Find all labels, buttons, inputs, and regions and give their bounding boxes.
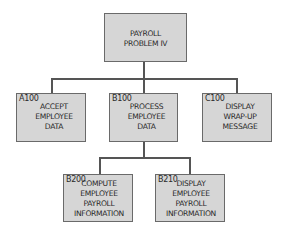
connector-to-b100 bbox=[143, 78, 145, 93]
module-label: COMPUTE EMPLOYEE PAYROLL INFORMATION bbox=[66, 179, 132, 219]
connector-to-b210 bbox=[189, 157, 191, 174]
module-label-line: COMPUTE bbox=[66, 179, 132, 189]
module-label-line: DISPLAY bbox=[158, 179, 224, 189]
module-label: DISPLAY WRAP-UP MESSAGE bbox=[209, 102, 271, 132]
connector-to-c100 bbox=[236, 78, 238, 93]
connector-root-down bbox=[143, 62, 145, 78]
module-label-line: EMPLOYEE bbox=[66, 189, 132, 199]
connector-level1-bus bbox=[51, 78, 238, 80]
box-a100-accept-employee-data: A100 ACCEPT EMPLOYEE DATA bbox=[16, 93, 86, 142]
module-label-line: PROCESS bbox=[116, 102, 177, 112]
box-b200-compute-employee-payroll-information: B200 COMPUTE EMPLOYEE PAYROLL INFORMATIO… bbox=[63, 174, 133, 222]
module-label-line: EMPLOYEE bbox=[158, 189, 224, 199]
module-label-line: MESSAGE bbox=[209, 122, 271, 132]
connector-to-b200 bbox=[99, 157, 101, 174]
root-box-payroll-problem-iv: PAYROLL PROBLEM IV bbox=[104, 13, 187, 62]
box-b100-process-employee-data: B100 PROCESS EMPLOYEE DATA bbox=[109, 93, 178, 142]
module-label-line: DATA bbox=[116, 122, 177, 132]
module-label-line: INFORMATION bbox=[66, 209, 132, 219]
connector-b100-down bbox=[143, 142, 145, 157]
root-label-line: PAYROLL bbox=[105, 29, 186, 39]
module-label-line: WRAP-UP bbox=[209, 112, 271, 122]
box-c100-display-wrap-up-message: C100 DISPLAY WRAP-UP MESSAGE bbox=[202, 93, 272, 142]
module-label: PROCESS EMPLOYEE DATA bbox=[116, 102, 177, 132]
module-label-line: EMPLOYEE bbox=[116, 112, 177, 122]
root-label-line: PROBLEM IV bbox=[105, 39, 186, 49]
module-label: ACCEPT EMPLOYEE DATA bbox=[23, 102, 85, 132]
module-label-line: EMPLOYEE bbox=[23, 112, 85, 122]
module-label-line: PAYROLL bbox=[158, 199, 224, 209]
module-label-line: DISPLAY bbox=[209, 102, 271, 112]
connector-to-a100 bbox=[51, 78, 53, 93]
box-b210-display-employee-payroll-information: B210 DISPLAY EMPLOYEE PAYROLL INFORMATIO… bbox=[155, 174, 225, 222]
module-label-line: PAYROLL bbox=[66, 199, 132, 209]
connector-level2-bus bbox=[99, 157, 190, 159]
root-label: PAYROLL PROBLEM IV bbox=[105, 29, 186, 49]
module-label-line: INFORMATION bbox=[158, 209, 224, 219]
module-label-line: DATA bbox=[23, 122, 85, 132]
module-label-line: ACCEPT bbox=[23, 102, 85, 112]
module-label: DISPLAY EMPLOYEE PAYROLL INFORMATION bbox=[158, 179, 224, 219]
